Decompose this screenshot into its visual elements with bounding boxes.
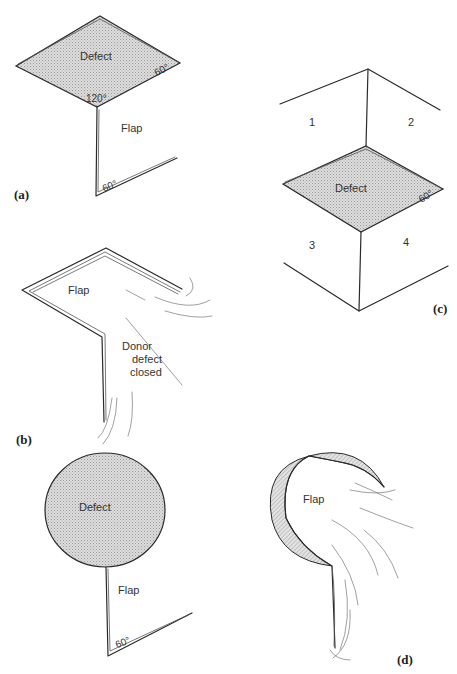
tension-line: [186, 278, 193, 296]
defect-label: Defect: [335, 182, 367, 194]
region-label-3: 3: [309, 239, 315, 251]
flap-label: Flap: [121, 122, 142, 134]
tension-line: [332, 520, 378, 575]
flap-label: Flap: [68, 284, 89, 296]
tension-line: [103, 398, 117, 444]
tension-line: [98, 398, 112, 438]
panel-label-b: (b): [16, 432, 32, 447]
panel-d: Flap (d): [270, 453, 413, 667]
panel-label-d: (d): [397, 652, 413, 667]
panel-c: 1 2 Defect 60° 3 4 (c): [280, 69, 448, 316]
donor-label-line2: defect: [132, 353, 162, 365]
tension-line: [165, 311, 212, 317]
donor-label-line3: closed: [130, 366, 162, 378]
flap-outline: [22, 248, 182, 422]
defect-label: Defect: [79, 501, 111, 513]
closure-crescent-left: [270, 456, 332, 566]
lower-vertical: [359, 232, 361, 311]
region-label-2: 2: [408, 116, 414, 128]
region-label-4: 4: [403, 236, 409, 248]
tension-line: [355, 483, 392, 500]
tension-line: [126, 290, 145, 300]
panel-d-design: Defect Flap 60°: [45, 453, 192, 656]
panel-a: Defect 60° 120° Flap 60° (a): [14, 16, 180, 202]
tension-line: [155, 297, 210, 305]
panel-b: Flap Donor defect closed (b): [16, 248, 212, 447]
donor-label-line1: Donor: [122, 340, 152, 352]
lower-incision: [284, 263, 448, 311]
tension-line: [360, 508, 413, 528]
flap-outline-inner: [29, 252, 180, 420]
angle-label-bottom: 120°: [86, 93, 107, 104]
region-label-1: 1: [309, 116, 315, 128]
tension-line: [364, 530, 398, 578]
upper-vertical: [366, 69, 368, 146]
defect-label: Defect: [80, 50, 112, 62]
angle-label-base: 60°: [101, 178, 119, 194]
tension-line: [128, 392, 133, 436]
flap-label: Flap: [303, 493, 324, 505]
flap-diagram: Defect 60° 120° Flap 60° (a) Flap Donor …: [0, 0, 457, 674]
tension-line: [332, 545, 358, 605]
panel-label-c: (c): [433, 301, 447, 316]
angle-label-base: 60°: [114, 634, 132, 650]
upper-incision: [280, 69, 440, 110]
panel-label-a: (a): [14, 187, 29, 202]
flap-label: Flap: [118, 584, 139, 596]
